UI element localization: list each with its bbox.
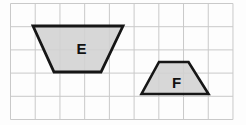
figure-background [0,0,246,125]
trapezoid-F-label: F [172,74,181,91]
grid-diagram: EF [0,0,246,125]
trapezoid-E-label: E [76,40,86,57]
worksheet-figure: EF [0,0,246,125]
